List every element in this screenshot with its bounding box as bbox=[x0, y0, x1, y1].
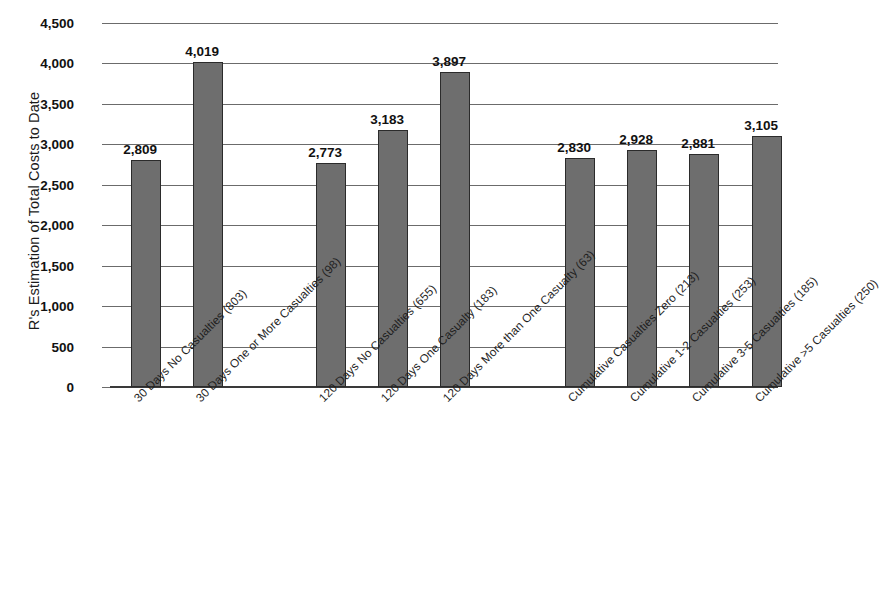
bar-value-label: 3,897 bbox=[432, 54, 468, 69]
y-axis-tick-mark bbox=[102, 23, 110, 24]
bar-value-label: 2,881 bbox=[681, 136, 717, 151]
bar bbox=[378, 130, 408, 387]
gridline bbox=[110, 23, 778, 24]
y-axis-tick-label: 4,000 bbox=[0, 56, 74, 71]
y-axis-tick-label: 1,500 bbox=[0, 258, 74, 273]
bar bbox=[131, 160, 161, 387]
bar-value-label: 3,105 bbox=[744, 118, 780, 133]
y-axis-tick-label: 0 bbox=[0, 380, 74, 395]
bar-value-label: 3,183 bbox=[370, 112, 406, 127]
y-axis-tick-mark bbox=[102, 387, 110, 388]
y-axis-tick-mark bbox=[102, 185, 110, 186]
bar-value-label: 2,809 bbox=[123, 142, 159, 157]
y-axis-tick-label: 500 bbox=[0, 339, 74, 354]
y-axis-tick-mark bbox=[102, 63, 110, 64]
y-axis-tick-mark bbox=[102, 266, 110, 267]
y-axis-tick-mark bbox=[102, 347, 110, 348]
bar-value-label: 2,928 bbox=[619, 132, 655, 147]
y-axis-tick-label: 2,000 bbox=[0, 218, 74, 233]
y-axis-tick-label: 1,000 bbox=[0, 299, 74, 314]
y-axis-tick-mark bbox=[102, 104, 110, 105]
bar-value-label: 2,773 bbox=[308, 145, 344, 160]
y-axis-tick-mark bbox=[102, 144, 110, 145]
y-axis-tick-label: 2,500 bbox=[0, 177, 74, 192]
bar-value-label: 2,830 bbox=[557, 140, 593, 155]
bar-value-label: 4,019 bbox=[185, 44, 221, 59]
y-axis-tick-label: 3,500 bbox=[0, 96, 74, 111]
y-axis-tick-label: 3,000 bbox=[0, 137, 74, 152]
y-axis-tick-label: 4,500 bbox=[0, 16, 74, 31]
bar bbox=[627, 150, 657, 387]
bar bbox=[752, 136, 782, 387]
y-axis-tick-mark bbox=[102, 306, 110, 307]
y-axis-tick-mark bbox=[102, 225, 110, 226]
